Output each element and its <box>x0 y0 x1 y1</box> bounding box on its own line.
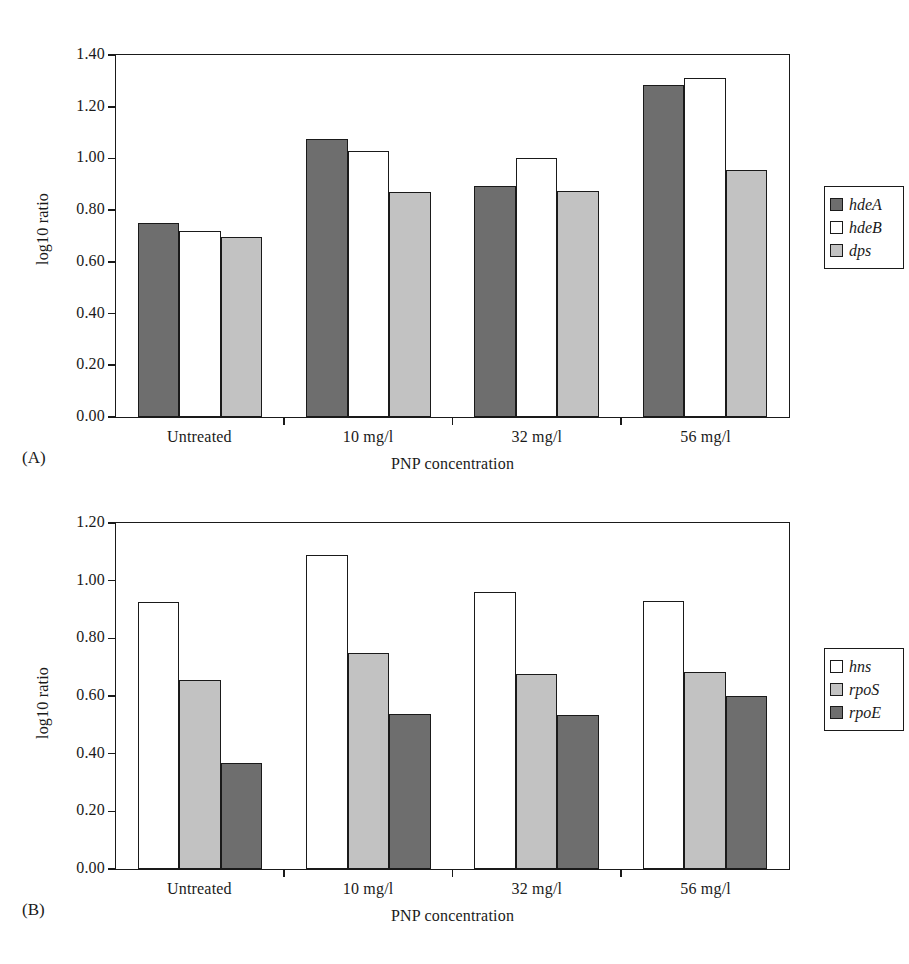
bar-set <box>643 55 768 417</box>
x-axis-labels-b: Untreated10 mg/l32 mg/l56 mg/l <box>115 880 790 898</box>
y-tick-label: 0.60 <box>76 252 105 270</box>
legend-swatch-icon <box>830 244 843 257</box>
y-tick-mark <box>108 868 116 870</box>
legend-item-hns[interactable]: hns <box>830 655 895 678</box>
legend-b: hnsrpoSrpoE <box>824 648 904 731</box>
y-tick-mark <box>108 209 116 211</box>
bar-group <box>284 55 452 417</box>
legend-label: dps <box>849 242 871 260</box>
y-tick-mark <box>108 158 116 160</box>
bar-dps[interactable] <box>726 170 768 417</box>
bar-group <box>116 55 284 417</box>
bar-dps[interactable] <box>557 191 599 417</box>
x-tick-label: 56 mg/l <box>621 880 790 898</box>
legend-label: rpoE <box>849 704 881 722</box>
x-axis-title-b: PNP concentration <box>115 907 790 925</box>
bar-rpoE[interactable] <box>557 715 599 869</box>
legend-swatch-icon <box>830 198 843 211</box>
x-tick-mark <box>620 869 622 877</box>
bar-dps[interactable] <box>221 237 263 417</box>
panel-b: log10 ratio 1.201.000.800.600.400.200.00… <box>0 482 909 964</box>
x-tick-mark <box>283 869 285 877</box>
panel-label-a: (A) <box>22 448 46 468</box>
y-tick-mark <box>108 753 116 755</box>
x-tick-label: Untreated <box>115 880 284 898</box>
bar-rpoS[interactable] <box>348 653 390 869</box>
plot-area-b: log10 ratio 1.201.000.800.600.400.200.00… <box>0 482 909 964</box>
plot-frame-b: 1.201.000.800.600.400.200.00 <box>115 522 790 870</box>
y-tick-label: 0.20 <box>76 355 105 373</box>
bar-hdeA[interactable] <box>643 85 685 417</box>
bar-rpoE[interactable] <box>221 763 263 869</box>
x-tick-label: Untreated <box>115 428 284 446</box>
bar-hdeB[interactable] <box>179 231 221 417</box>
y-axis-title-b: log10 ratio <box>34 648 52 758</box>
y-tick-mark <box>108 416 116 418</box>
bar-dps[interactable] <box>389 192 431 417</box>
y-tick-label: 0.80 <box>76 200 105 218</box>
legend-label: hdeB <box>849 219 882 237</box>
bar-hdeA[interactable] <box>138 223 180 417</box>
y-tick-label: 0.00 <box>76 859 105 877</box>
legend-item-rpoS[interactable]: rpoS <box>830 678 895 701</box>
bar-rpoS[interactable] <box>179 680 221 869</box>
y-tick-mark <box>108 364 116 366</box>
y-tick-label: 1.40 <box>76 45 105 63</box>
bar-set <box>138 523 263 869</box>
bar-group <box>116 523 284 869</box>
y-tick-mark <box>108 580 116 582</box>
y-tick-mark <box>108 522 116 524</box>
bar-hdeB[interactable] <box>348 151 390 417</box>
legend-label: hdeA <box>849 196 882 214</box>
y-tick-label: 0.00 <box>76 407 105 425</box>
legend-swatch-icon <box>830 683 843 696</box>
bar-hns[interactable] <box>643 601 685 869</box>
y-tick-mark <box>108 638 116 640</box>
bar-group <box>453 523 621 869</box>
legend-item-hdeA[interactable]: hdeA <box>830 193 895 216</box>
bar-hdeA[interactable] <box>306 139 348 417</box>
bar-rpoS[interactable] <box>516 674 558 869</box>
y-tick-label: 1.00 <box>76 571 105 589</box>
plot-area-a: log10 ratio 1.401.201.000.800.600.400.20… <box>0 0 909 482</box>
bar-hns[interactable] <box>306 555 348 869</box>
x-tick-label: 32 mg/l <box>453 880 622 898</box>
x-tick-label: 10 mg/l <box>284 880 453 898</box>
bar-groups-b <box>116 523 789 869</box>
bar-hns[interactable] <box>474 592 516 869</box>
y-tick-label: 1.00 <box>76 148 105 166</box>
bar-groups-a <box>116 55 789 417</box>
bar-rpoE[interactable] <box>389 714 431 869</box>
y-tick-mark <box>108 54 116 56</box>
y-tick-label: 0.40 <box>76 744 105 762</box>
legend-swatch-icon <box>830 221 843 234</box>
plot-frame-a: 1.401.201.000.800.600.400.200.00 <box>115 54 790 418</box>
x-tick-mark <box>452 417 454 425</box>
legend-item-hdeB[interactable]: hdeB <box>830 216 895 239</box>
y-tick-mark <box>108 313 116 315</box>
x-tick-label: 10 mg/l <box>284 428 453 446</box>
legend-item-dps[interactable]: dps <box>830 239 895 262</box>
legend-item-rpoE[interactable]: rpoE <box>830 701 895 724</box>
bar-hdeA[interactable] <box>474 186 516 417</box>
bar-rpoE[interactable] <box>726 696 768 869</box>
bar-rpoS[interactable] <box>684 672 726 869</box>
bar-hns[interactable] <box>138 602 180 869</box>
bar-group <box>621 523 789 869</box>
y-tick-mark <box>108 811 116 813</box>
bar-hdeB[interactable] <box>684 78 726 417</box>
panel-a: log10 ratio 1.401.201.000.800.600.400.20… <box>0 0 909 482</box>
y-tick-label: 0.20 <box>76 801 105 819</box>
panel-label-b: (B) <box>22 900 45 920</box>
y-tick-mark <box>108 106 116 108</box>
bar-hdeB[interactable] <box>516 158 558 417</box>
bar-set <box>306 55 431 417</box>
x-tick-mark <box>283 417 285 425</box>
y-tick-label: 1.20 <box>76 513 105 531</box>
bar-group <box>453 55 621 417</box>
x-tick-label: 56 mg/l <box>621 428 790 446</box>
x-tick-mark <box>620 417 622 425</box>
x-axis-title-a: PNP concentration <box>115 455 790 473</box>
bar-set <box>643 523 768 869</box>
y-tick-mark <box>108 261 116 263</box>
